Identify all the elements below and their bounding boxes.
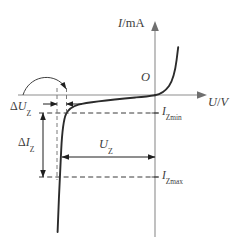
origin-label: O (141, 71, 150, 84)
y-axis-arrowhead (151, 21, 159, 31)
delta-iz-bottom-arrowhead (40, 170, 46, 178)
axis-group (18, 21, 207, 237)
forward-branch-path (155, 47, 178, 95)
izmin-label: IZmin (162, 106, 182, 118)
iv-curve-svg (0, 0, 243, 249)
uz-left-arrowhead (62, 154, 70, 160)
delta-iz-top-arrowhead (40, 113, 46, 121)
delta-uz-left-arrowhead (51, 101, 58, 107)
delta-uz-right-arrowhead (66, 101, 73, 107)
knee-pointer-arc (23, 77, 64, 95)
zener-iv-characteristic-figure: I/mA U/V O ΔUZ ΔIZ UZ IZmin IZmax (0, 0, 243, 249)
izmax-label: IZmax (162, 170, 183, 182)
reverse-branch-path (58, 95, 155, 232)
characteristic-curve-group (58, 47, 179, 232)
x-axis-arrowhead (197, 91, 207, 99)
knee-indicator-arc-group (23, 77, 67, 95)
delta-iz-label: ΔIZ (18, 136, 34, 148)
x-axis-label: U/V (208, 96, 228, 109)
delta-iz-dimension-group (40, 113, 46, 178)
uz-right-arrowhead (148, 154, 156, 160)
y-axis-label: I/mA (118, 17, 144, 30)
uz-label: UZ (99, 138, 113, 151)
delta-uz-label: ΔUZ (10, 100, 31, 112)
